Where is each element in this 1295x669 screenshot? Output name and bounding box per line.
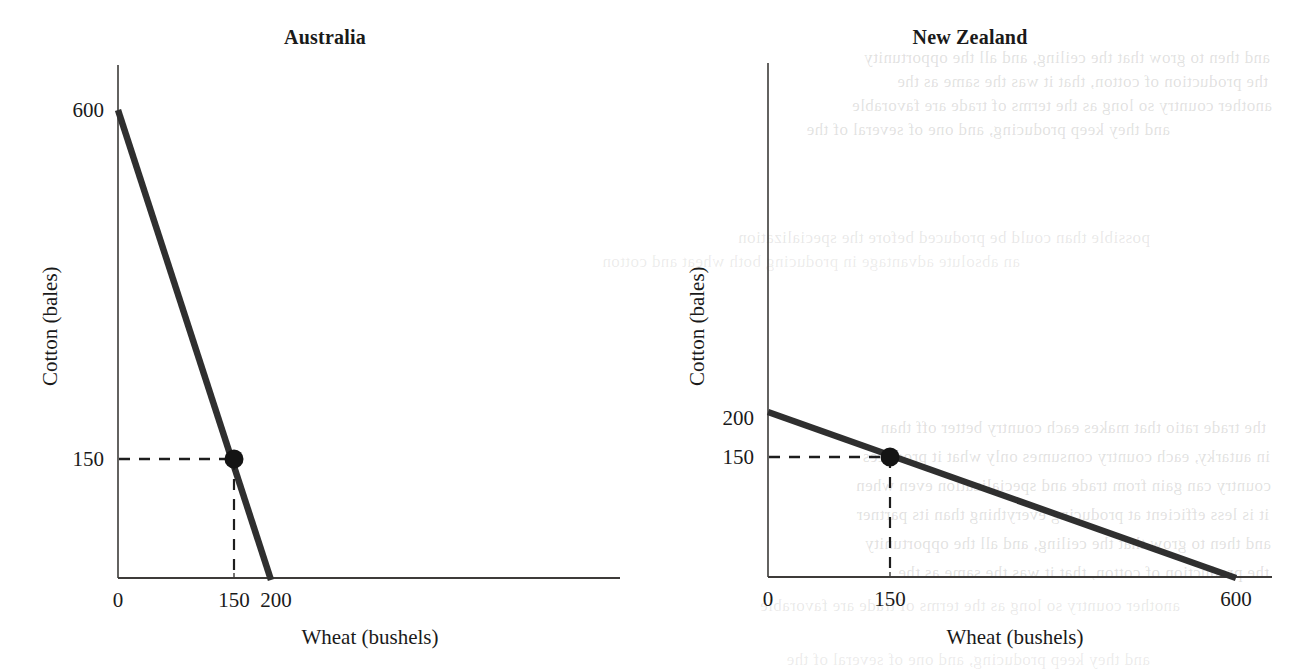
ppf-curve <box>118 110 271 580</box>
chart-panel-australia: Australia 600 150 0 150 200 Wheat (bushe… <box>0 0 650 669</box>
x-tick-label-200: 200 <box>246 588 306 613</box>
production-point-marker <box>881 448 900 467</box>
x-axis-title: Wheat (bushels) <box>645 625 1295 650</box>
y-tick-label-150: 150 <box>30 447 104 472</box>
y-tick-label-150: 150 <box>680 445 754 470</box>
ppf-curve <box>768 412 1236 578</box>
y-tick-label-200: 200 <box>680 406 754 431</box>
y-axis-title: Cotton (bales) <box>38 266 63 386</box>
x-tick-label-0: 0 <box>738 587 798 612</box>
x-tick-label-0: 0 <box>88 588 148 613</box>
production-point-marker <box>225 450 244 469</box>
chart-panel-newzealand: New Zealand 200 150 0 150 600 Wheat (bus… <box>645 0 1295 669</box>
x-axis-title: Wheat (bushels) <box>0 625 740 650</box>
figure-root: and then to grow that the ceiling, and a… <box>0 0 1295 669</box>
x-tick-label-600: 600 <box>1206 587 1266 612</box>
x-tick-label-150: 150 <box>860 587 920 612</box>
newzealand-plot-svg <box>645 0 1295 669</box>
y-axis-title: Cotton (bales) <box>685 266 710 386</box>
y-tick-label-600: 600 <box>30 98 104 123</box>
